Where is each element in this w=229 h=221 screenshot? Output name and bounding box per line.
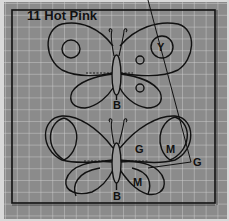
label-bottom-m-upper: M [166, 144, 175, 155]
label-bottom-m-lower: M [133, 177, 142, 188]
label-bottom-g-leader: G [193, 157, 202, 168]
label-top-y: Y [157, 42, 164, 53]
pattern-title: 11 Hot Pink [27, 9, 97, 23]
label-bottom-g-wing: G [135, 144, 144, 155]
label-bottom-b: B [113, 191, 121, 202]
label-top-b: B [113, 100, 121, 111]
